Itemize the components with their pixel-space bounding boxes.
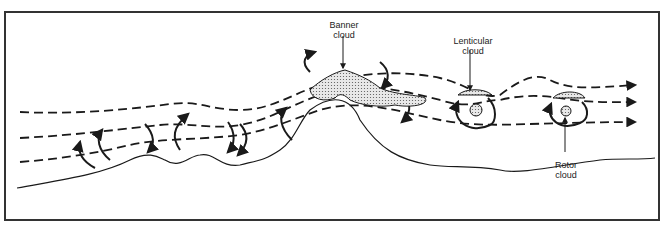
frame <box>5 12 659 220</box>
rotor-cloud-2 <box>561 106 571 116</box>
rotor-cloud-1 <box>470 104 482 116</box>
lenticular-cloud-1 <box>458 90 492 95</box>
lenticular-label-line1: Lenticular <box>448 36 498 46</box>
lenticular-label-line2: cloud <box>448 46 498 56</box>
rotor-label-line2: cloud <box>548 170 584 180</box>
banner-cloud-label: Banner cloud <box>323 20 365 40</box>
lenticular-cloud-2 <box>553 92 585 98</box>
banner-label-line1: Banner <box>323 20 365 30</box>
rotor-label-line1: Rotor <box>548 160 584 170</box>
lenticular-cloud-label: Lenticular cloud <box>448 36 498 56</box>
banner-label-line2: cloud <box>323 30 365 40</box>
rotor-cloud-label: Rotor cloud <box>548 160 584 180</box>
